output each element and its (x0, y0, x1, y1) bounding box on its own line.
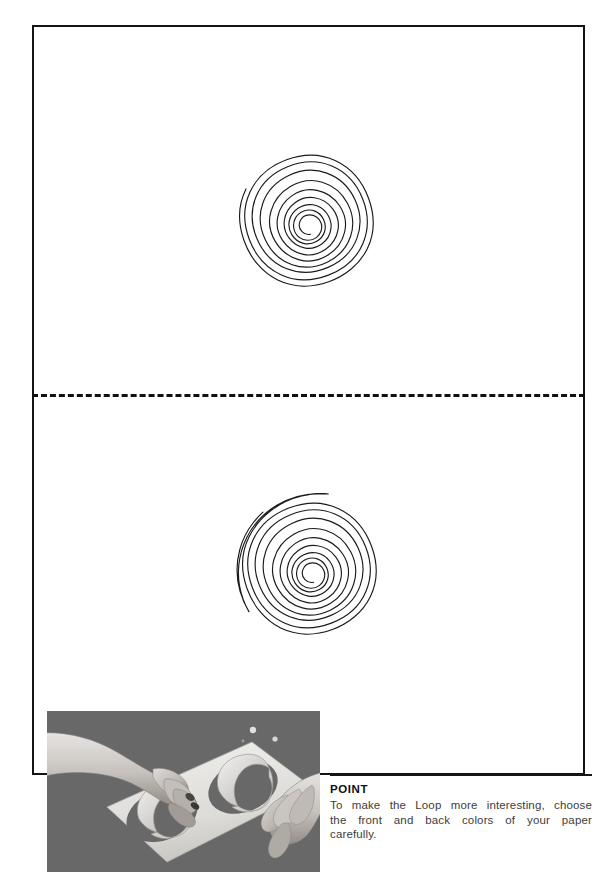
point-body-line-3: carefully. (330, 827, 592, 842)
spiral-lower-path (237, 494, 376, 634)
point-body-line-2: thefrontandbackcolorsofyourpaper (330, 813, 592, 828)
spiral-upper-path (240, 155, 373, 286)
instruction-photograph (47, 711, 320, 872)
point-caption-block: POINT TomaketheLoopmoreinteresting,choos… (330, 776, 592, 842)
spiral-lower-svg (182, 424, 438, 710)
point-title: POINT (330, 783, 592, 796)
spiral-upper-svg (180, 78, 432, 334)
photograph-illustration (47, 711, 320, 872)
point-body-line-1: TomaketheLoopmoreinteresting,choose (330, 798, 592, 813)
dashed-cut-line (32, 394, 585, 397)
point-body: TomaketheLoopmoreinteresting,choose thef… (330, 798, 592, 842)
spiral-template-lower (182, 424, 438, 710)
spiral-template-upper (180, 78, 432, 334)
